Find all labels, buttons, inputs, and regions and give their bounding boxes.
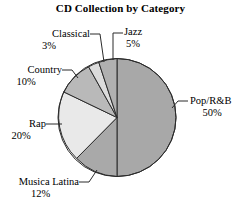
slice-label-musica-latina-name: Musica Latina	[2, 176, 79, 188]
slice-label-rap: Rap 20%	[0, 118, 46, 141]
slice-label-musica-latina-percent: 12%	[2, 188, 79, 200]
slice-label-musica-latina: Musica Latina 12%	[2, 176, 79, 199]
slice-label-jazz: Jazz 5%	[124, 26, 174, 49]
slice-label-rap-percent: 20%	[0, 130, 46, 142]
slice-label-rap-name: Rap	[0, 118, 46, 130]
slice-label-pop-rnb: Pop/R&B 50%	[190, 95, 241, 118]
slice-label-country-percent: 10%	[0, 76, 62, 88]
slice-label-classical: Classical 3%	[22, 28, 90, 51]
slice-label-pop-rnb-percent: 50%	[190, 107, 241, 119]
slice-label-classical-name: Classical	[22, 28, 90, 40]
slice-label-jazz-percent: 5%	[124, 38, 174, 50]
pie-slice-pop-rnb[interactable]	[117, 59, 176, 177]
slice-label-pop-rnb-name: Pop/R&B	[190, 95, 241, 107]
slice-label-country-name: Country	[0, 64, 62, 76]
pie-chart: CD Collection by Category Classical 3% J…	[0, 0, 241, 215]
leader-line-classical	[90, 34, 104, 62]
slice-label-jazz-name: Jazz	[124, 26, 174, 38]
leader-line-jazz	[113, 33, 123, 60]
slice-label-country: Country 10%	[0, 64, 62, 87]
slice-label-classical-percent: 3%	[22, 40, 90, 52]
